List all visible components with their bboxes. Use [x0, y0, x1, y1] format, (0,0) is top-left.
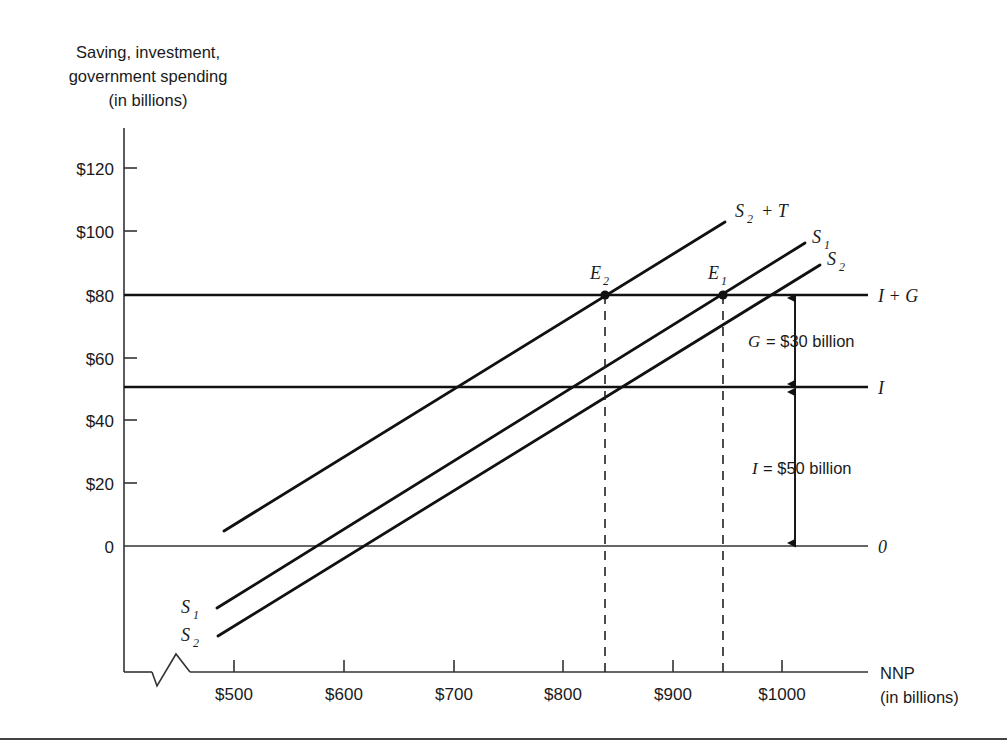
- economics-chart: Saving, investment, government spending …: [0, 0, 1007, 755]
- e2-label-base: E: [589, 263, 601, 283]
- y-tick-label-80: $80: [86, 287, 114, 306]
- y-tick-label-120: $120: [76, 160, 114, 179]
- y-tick-label-40: $40: [86, 412, 114, 431]
- axis-break-icon: [152, 654, 190, 686]
- e1-label-sub: 1: [721, 274, 727, 288]
- s2-label-upper-base: S: [827, 249, 836, 269]
- x-tick-label-1000: $1000: [758, 685, 805, 704]
- y-tick-label-100: $100: [76, 223, 114, 242]
- s2-label-upper-sub: 2: [839, 260, 845, 274]
- e2-label-sub: 2: [603, 274, 609, 288]
- y-tick-group: $120 $100 $80 $60 $40 $20 0: [76, 160, 137, 557]
- x-tick-label-800: $800: [544, 685, 582, 704]
- s2-label-lower-sub: 2: [193, 636, 199, 650]
- x-tick-label-700: $700: [435, 685, 473, 704]
- s1-label-lower-base: S: [181, 597, 190, 617]
- s2-plus-t-label-sub: 2: [747, 212, 753, 226]
- g-annotation-symbol: G: [748, 332, 760, 351]
- s2-plus-t-label-group: S 2 + T: [735, 201, 790, 226]
- investment-bracket: I = $50 billion: [751, 391, 852, 544]
- x-tick-group: $500 $600 $700 $800 $900 $1000: [215, 660, 806, 704]
- s1-label-lower-sub: 1: [193, 608, 199, 622]
- investment-line-label: I: [877, 378, 885, 398]
- zero-line-label: 0: [878, 537, 887, 557]
- y-axis-title-line3: (in billions): [109, 91, 188, 109]
- y-tick-label-0: 0: [105, 538, 114, 557]
- s1-label-upper-base: S: [812, 227, 821, 247]
- i-annotation-symbol: I: [751, 459, 759, 478]
- i-annotation-text: = $50 billion: [763, 459, 852, 477]
- e1-label-base: E: [707, 263, 719, 283]
- investment-plus-government-label: I + G: [877, 286, 918, 306]
- s2-schedule: [218, 265, 820, 636]
- s1-label-lower-group: S 1: [181, 597, 199, 622]
- y-axis-title-line1: Saving, investment,: [76, 43, 220, 61]
- s2-plus-t-label-tail: + T: [761, 201, 790, 221]
- e1-label-group: E 1: [707, 263, 727, 288]
- x-axis-title-line1: NNP: [880, 664, 915, 682]
- y-axis-title-line2: government spending: [69, 67, 228, 85]
- y-tick-label-60: $60: [86, 350, 114, 369]
- e2-point-marker: [600, 290, 609, 299]
- figure-container: Saving, investment, government spending …: [0, 0, 1007, 755]
- government-spending-bracket: G = $30 billion: [748, 297, 855, 385]
- x-tick-label-900: $900: [654, 685, 692, 704]
- s2-label-lower-base: S: [181, 625, 190, 645]
- y-tick-label-20: $20: [86, 475, 114, 494]
- s2-plus-t-schedule: [224, 222, 725, 531]
- s2-label-upper-group: S 2: [827, 249, 845, 274]
- e2-label-group: E 2: [589, 263, 609, 288]
- s1-schedule: [217, 243, 805, 608]
- x-tick-label-600: $600: [325, 685, 363, 704]
- x-tick-label-500: $500: [215, 685, 253, 704]
- x-axis-title-line2: (in billions): [880, 688, 959, 706]
- g-annotation-text: = $30 billion: [766, 332, 855, 350]
- e1-point-marker: [718, 290, 727, 299]
- s2-plus-t-label-base: S: [735, 201, 744, 221]
- s2-label-lower-group: S 2: [181, 625, 199, 650]
